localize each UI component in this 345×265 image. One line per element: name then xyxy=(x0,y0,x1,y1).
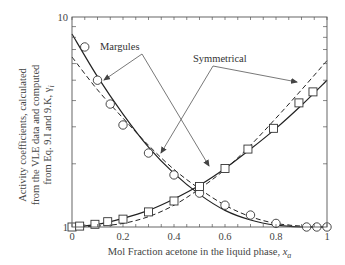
axis-tick-labels: 00.20.40.60.81110 xyxy=(58,12,330,242)
circle-marker xyxy=(144,149,152,157)
y-axis-label-line-3: from Eq. 9.I and 9.K, γi xyxy=(42,65,59,206)
annotations: Margules Symmetrical xyxy=(100,41,297,166)
circle-marker xyxy=(93,76,101,84)
square-marker xyxy=(221,164,229,172)
circle-marker xyxy=(170,171,178,179)
circle-marker xyxy=(221,201,229,209)
circle-marker xyxy=(246,211,254,219)
data-markers xyxy=(68,43,331,231)
x-tick-label: 0.8 xyxy=(269,231,282,242)
y-axis-label: Activity coefficients, calculated from t… xyxy=(8,40,68,230)
square-marker xyxy=(269,124,277,132)
circle-marker xyxy=(119,121,127,129)
x-tick-label: 0.6 xyxy=(218,231,231,242)
square-marker xyxy=(196,182,204,190)
circle-marker xyxy=(81,43,89,51)
circle-marker xyxy=(106,100,114,108)
x-tick-label: 1 xyxy=(324,231,329,242)
symmetrical-curve-4 xyxy=(72,57,327,227)
square-marker xyxy=(295,99,303,107)
square-marker xyxy=(170,197,178,205)
y-axis-label-line-2: from the VLE data and computed xyxy=(30,65,43,206)
symmetrical-curve-5 xyxy=(72,61,327,227)
square-marker xyxy=(76,222,84,230)
x-tick-label: 0.2 xyxy=(116,231,129,242)
square-marker xyxy=(119,215,127,223)
symmetrical-arrow-left xyxy=(161,66,213,153)
symmetrical-arrow-right xyxy=(213,66,297,82)
symmetrical-label: Symmetrical xyxy=(193,53,247,64)
square-marker xyxy=(244,145,252,153)
square-marker xyxy=(145,208,153,216)
y-axis-label-line-1: Activity coefficients, calculated xyxy=(17,65,30,206)
x-tick-label: 0 xyxy=(69,231,74,242)
margules-arrow-left xyxy=(104,54,142,80)
square-marker xyxy=(309,88,317,96)
x-axis-label: Mol Fraction acetone in the liquid phase… xyxy=(72,246,327,260)
x-tick-label: 0.4 xyxy=(167,231,181,242)
margules-label: Margules xyxy=(100,41,139,52)
y-tick-label: 10 xyxy=(58,12,69,23)
